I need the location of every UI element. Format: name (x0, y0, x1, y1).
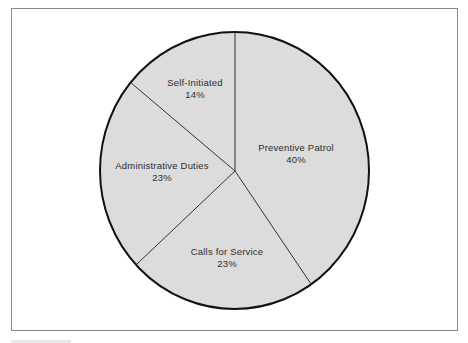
slice-label-administrative-duties: Administrative Duties 23% (115, 160, 208, 184)
slice-value: 23% (115, 172, 208, 184)
slice-name: Administrative Duties (115, 160, 208, 172)
slice-name: Calls for Service (191, 246, 264, 258)
slice-label-preventive-patrol: Preventive Patrol 40% (258, 142, 334, 166)
slice-name: Preventive Patrol (258, 142, 334, 154)
slice-value: 14% (167, 89, 223, 101)
slice-label-calls-for-service: Calls for Service 23% (191, 246, 264, 270)
pie-chart (0, 0, 468, 343)
slice-name: Self-Initiated (167, 77, 223, 89)
slice-label-self-initiated: Self-Initiated 14% (167, 77, 223, 101)
slice-value: 23% (191, 258, 264, 270)
slice-value: 40% (258, 154, 334, 166)
